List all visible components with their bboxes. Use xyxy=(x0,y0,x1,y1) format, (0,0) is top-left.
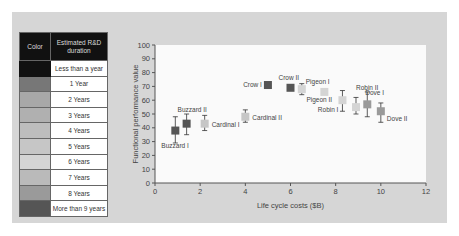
x-tick-label: 8 xyxy=(334,187,338,196)
data-point-marker xyxy=(363,100,371,108)
data-point-label: Dove I xyxy=(365,89,384,96)
data-point-label: Pigeon II xyxy=(306,96,332,104)
x-tick-label: 0 xyxy=(153,187,157,196)
x-tick-label: 12 xyxy=(422,187,430,196)
data-point-marker xyxy=(377,107,385,115)
y-tick-label: 70 xyxy=(142,82,150,91)
data-point-label: Cardinal I xyxy=(212,121,240,128)
data-point-label: Buzzard II xyxy=(178,106,207,113)
y-tick-label: 90 xyxy=(142,54,150,63)
data-point-marker xyxy=(320,88,328,96)
y-tick-label: 40 xyxy=(142,123,150,132)
y-axis-label: Functional performance value xyxy=(131,65,140,164)
data-point-label: Crow II xyxy=(279,74,300,81)
y-tick-label: 10 xyxy=(142,165,150,174)
data-point-marker xyxy=(201,120,209,128)
data-point-marker xyxy=(183,120,191,128)
x-tick-label: 4 xyxy=(243,187,247,196)
y-tick-label: 100 xyxy=(137,41,150,50)
y-tick-label: 50 xyxy=(142,110,150,119)
data-point-marker xyxy=(241,113,249,121)
y-tick-label: 30 xyxy=(142,137,150,146)
y-tick-label: 80 xyxy=(142,68,150,77)
x-tick-label: 2 xyxy=(198,187,202,196)
data-point-label: Crow I xyxy=(243,81,262,88)
data-point-marker xyxy=(264,81,272,89)
data-point-marker xyxy=(298,85,306,93)
data-point-marker xyxy=(352,103,360,111)
data-point-marker xyxy=(171,127,179,135)
data-point-label: Buzzard I xyxy=(161,142,189,149)
y-tick-label: 20 xyxy=(142,151,150,160)
y-tick-label: 0 xyxy=(146,179,150,188)
x-axis-label: Life cycle costs ($B) xyxy=(257,201,325,210)
data-point-label: Dove II xyxy=(387,115,408,122)
data-point-label: Cardinal II xyxy=(252,114,282,121)
y-tick-label: 60 xyxy=(142,96,150,105)
x-tick-label: 6 xyxy=(288,187,292,196)
x-tick-label: 10 xyxy=(377,187,385,196)
data-point-marker xyxy=(287,84,295,92)
data-point-label: Robin I xyxy=(318,106,339,113)
scatter-chart: 0102030405060708090100024681012Life cycl… xyxy=(0,0,459,236)
data-point-label: Pigeon I xyxy=(306,78,330,86)
data-point-marker xyxy=(338,96,346,104)
